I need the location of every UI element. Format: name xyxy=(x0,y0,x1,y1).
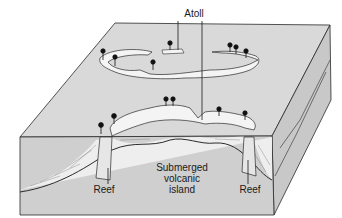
submerged-volcanic-island-label: Submerged volcanic island xyxy=(146,162,218,195)
atoll-islet-upper xyxy=(162,49,184,54)
reef-right-label: Reef xyxy=(234,184,266,195)
atoll-label: Atoll xyxy=(176,8,212,19)
volcano-label-line-2: volcanic xyxy=(146,173,218,184)
volcano-label-line-1: Submerged xyxy=(146,162,218,173)
reef-left-label: Reef xyxy=(88,184,120,195)
atoll-block-diagram: Atoll Reef Reef Submerged volcanic islan… xyxy=(0,0,342,218)
reef-right xyxy=(242,137,256,176)
volcano-label-line-3: island xyxy=(146,184,218,195)
